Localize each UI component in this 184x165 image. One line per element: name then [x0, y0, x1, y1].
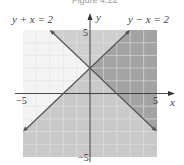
line1-label: y + x = 2 [12, 14, 53, 25]
x-tick-pos: 5 [153, 96, 158, 106]
x-tick-neg: −5 [16, 96, 27, 106]
x-axis-label: x [170, 97, 175, 108]
y-tick-pos: 5 [83, 28, 88, 38]
y-axis-label: y [96, 12, 101, 23]
y-axis-arrow-icon [88, 13, 93, 20]
line2-label: y − x = 2 [128, 14, 169, 25]
y-tick-neg: −5 [78, 153, 89, 163]
